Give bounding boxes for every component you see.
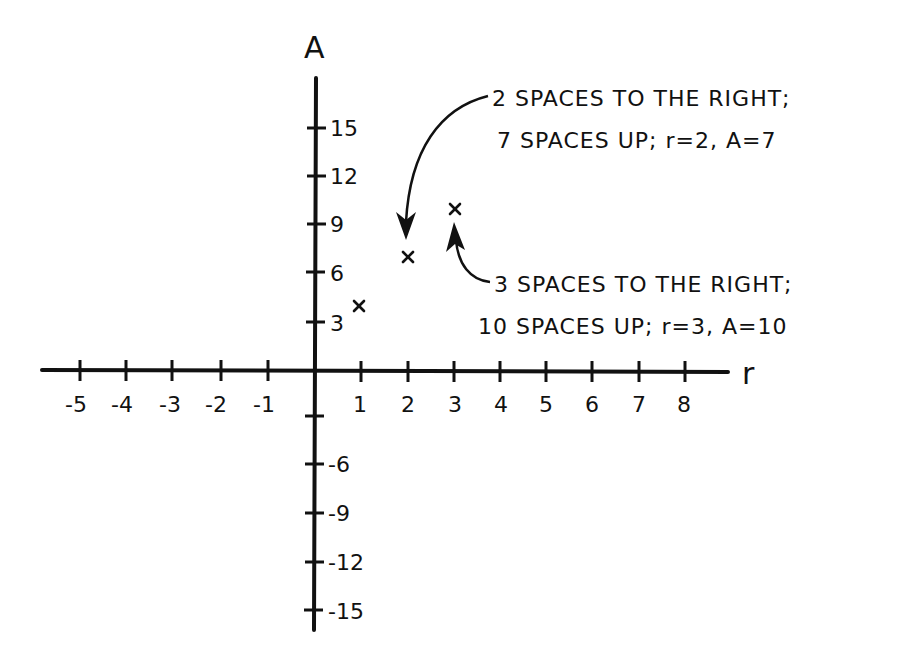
- coordinate-plot: A r -5 -4 -3 -2 -1 1 2 3 4 5 6 7 8 15 12…: [0, 0, 914, 660]
- svg-text:15: 15: [330, 116, 358, 141]
- x-axis: [42, 370, 728, 372]
- svg-text:8: 8: [677, 392, 691, 417]
- point-r3-a10: [450, 204, 460, 214]
- annotation-arrow-1: [396, 96, 488, 240]
- svg-text:2: 2: [401, 392, 415, 417]
- point-r2-a7: [403, 252, 413, 262]
- annotation-2-line-1: 3 SPACES TO THE RIGHT;: [494, 272, 793, 297]
- svg-text:-1: -1: [253, 392, 275, 417]
- svg-text:7: 7: [632, 392, 646, 417]
- point-r1-a4: [354, 301, 364, 311]
- svg-text:-2: -2: [205, 392, 227, 417]
- y-axis: [314, 78, 316, 630]
- annotation-arrow-2: [446, 222, 490, 282]
- svg-text:3: 3: [330, 311, 344, 336]
- x-tick-labels: -5 -4 -3 -2 -1 1 2 3 4 5 6 7 8: [65, 392, 691, 417]
- svg-text:6: 6: [585, 392, 599, 417]
- svg-text:9: 9: [330, 212, 344, 237]
- x-axis-title: r: [742, 356, 755, 391]
- svg-text:-6: -6: [328, 452, 350, 477]
- svg-text:3: 3: [448, 392, 462, 417]
- svg-text:-9: -9: [328, 501, 350, 526]
- svg-text:-12: -12: [328, 550, 364, 575]
- svg-text:6: 6: [330, 261, 344, 286]
- svg-text:12: 12: [330, 164, 358, 189]
- annotation-1-line-1: 2 SPACES TO THE RIGHT;: [492, 86, 791, 111]
- svg-text:-5: -5: [65, 392, 87, 417]
- svg-text:1: 1: [353, 392, 367, 417]
- y-axis-title: A: [304, 30, 325, 65]
- svg-text:4: 4: [494, 392, 508, 417]
- svg-text:-4: -4: [111, 392, 133, 417]
- svg-text:-3: -3: [159, 392, 181, 417]
- svg-text:5: 5: [539, 392, 553, 417]
- svg-text:-15: -15: [328, 599, 364, 624]
- annotation-2-line-2: 10 SPACES UP; r=3, A=10: [478, 314, 787, 339]
- annotation-1-line-2: 7 SPACES UP; r=2, A=7: [497, 128, 776, 153]
